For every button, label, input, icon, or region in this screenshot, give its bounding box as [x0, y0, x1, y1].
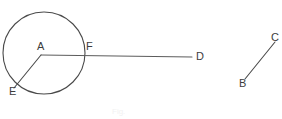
point-label-b: B [239, 78, 246, 89]
segment-BC [245, 42, 275, 79]
segment-AD [41, 55, 192, 57]
point-label-c: C [271, 32, 279, 43]
point-label-f: F [86, 41, 93, 52]
figure-caption: Fig. [112, 108, 125, 116]
geometry-figure: A F D E B C Fig. [0, 0, 282, 119]
point-label-d: D [196, 51, 204, 62]
segment-AE [14, 55, 41, 88]
point-label-a: A [37, 41, 44, 52]
figure-canvas [0, 0, 282, 119]
circle-A [3, 12, 85, 94]
point-label-e: E [9, 86, 16, 97]
